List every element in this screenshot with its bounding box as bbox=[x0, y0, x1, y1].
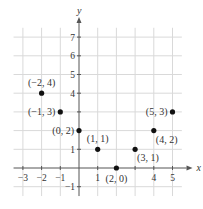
chart-canvas: xy −3−2−1145−114567 (−2, 4)(−1, 3)(0, 2)… bbox=[0, 0, 203, 209]
x-tick-label: 5 bbox=[170, 173, 175, 183]
y-tick-label: −1 bbox=[65, 182, 75, 192]
x-axis-arrow-icon bbox=[187, 166, 193, 171]
x-tick-label: −3 bbox=[18, 173, 28, 183]
data-point-label: (−2, 4) bbox=[28, 77, 55, 89]
data-point-label: (5, 3) bbox=[146, 106, 168, 118]
data-point bbox=[133, 147, 138, 152]
y-axis-label: y bbox=[76, 5, 82, 16]
x-axis-label: x bbox=[196, 162, 202, 173]
data-point bbox=[170, 109, 175, 114]
y-tick-label: 1 bbox=[70, 145, 75, 155]
y-tick-label: 7 bbox=[70, 33, 75, 43]
y-axis-arrow-icon bbox=[77, 17, 82, 23]
y-tick-label: 6 bbox=[70, 51, 75, 61]
y-tick-label: 4 bbox=[70, 89, 75, 99]
data-point bbox=[39, 91, 44, 96]
data-point-label: (4, 2) bbox=[156, 134, 178, 146]
data-point bbox=[151, 128, 156, 133]
data-point-label: (2, 0) bbox=[106, 173, 128, 185]
data-point bbox=[58, 109, 63, 114]
data-point bbox=[76, 128, 81, 133]
x-tick-label: 1 bbox=[95, 173, 100, 183]
y-tick-label: 5 bbox=[70, 70, 75, 80]
data-point-label: (0, 2) bbox=[52, 125, 74, 137]
data-point bbox=[114, 165, 119, 170]
x-tick-label: −2 bbox=[37, 173, 47, 183]
data-point-label: (1, 1) bbox=[87, 133, 109, 145]
x-tick-label: 4 bbox=[151, 173, 156, 183]
scatter-chart: xy −3−2−1145−114567 (−2, 4)(−1, 3)(0, 2)… bbox=[0, 0, 203, 209]
data-point-label: (3, 1) bbox=[137, 152, 159, 164]
data-point bbox=[95, 147, 100, 152]
data-point-label: (−1, 3) bbox=[28, 106, 55, 118]
